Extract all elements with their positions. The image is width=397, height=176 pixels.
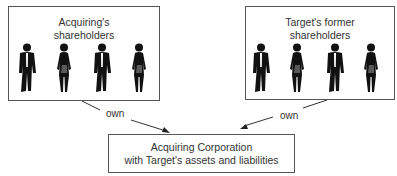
corporation-line-1: Acquiring Corporation xyxy=(109,141,294,154)
woman-silhouette-icon xyxy=(57,44,71,93)
arrowhead-icon xyxy=(162,127,170,133)
acquiring-corporation-box: Acquiring Corporation with Target's asse… xyxy=(108,134,295,173)
man-silhouette-icon xyxy=(327,44,344,93)
woman-silhouette-icon xyxy=(290,44,304,93)
own-label-left: own xyxy=(106,108,124,119)
corporation-text: Acquiring Corporation with Target's asse… xyxy=(109,141,294,167)
corporation-line-2: with Target's assets and liabilities xyxy=(109,154,294,167)
man-silhouette-icon xyxy=(253,44,270,93)
target-figures xyxy=(253,44,378,93)
acquiring-figures xyxy=(19,44,146,93)
woman-silhouette-icon xyxy=(364,44,378,93)
man-silhouette-icon xyxy=(94,44,111,93)
own-label-right: own xyxy=(280,110,298,121)
woman-silhouette-icon xyxy=(132,44,146,93)
man-silhouette-icon xyxy=(19,44,36,93)
